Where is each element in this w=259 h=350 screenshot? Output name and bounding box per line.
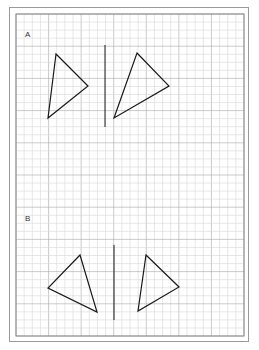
section-a-label: A bbox=[25, 30, 30, 39]
triangle-a-image bbox=[114, 53, 169, 118]
grid-paper bbox=[0, 0, 259, 350]
triangle-a-original bbox=[48, 54, 88, 118]
section-b-label: B bbox=[25, 214, 30, 223]
